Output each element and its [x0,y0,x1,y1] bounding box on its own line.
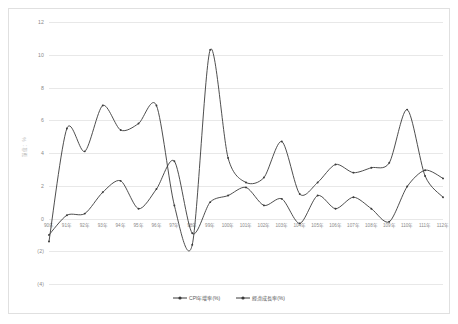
data-point-marker [263,177,265,179]
y-axis-title: 單位：% [21,137,27,157]
data-point-marker [370,167,372,169]
data-point-marker [245,186,247,188]
data-point-marker [299,193,301,195]
data-point-marker [173,204,175,206]
data-point-marker [299,222,301,224]
data-point-marker [84,150,86,152]
legend-item[interactable]: CPI年增率(%) [173,294,220,301]
data-point-marker [370,208,372,210]
data-point-marker [209,49,211,51]
y-axis-tick-label: 8 [41,85,44,91]
data-point-marker [263,204,265,206]
data-point-marker [388,162,390,164]
data-point-marker [191,232,193,234]
data-point-marker [227,157,229,159]
data-point-marker [442,177,444,179]
legend-line-marker-icon [173,295,187,301]
data-point-marker [388,221,390,223]
y-axis-tick-label: 10 [38,52,44,58]
data-point-marker [173,160,175,162]
data-point-marker [406,109,408,111]
data-point-marker [209,201,211,203]
data-point-marker [191,244,193,246]
data-point-marker [84,213,86,215]
data-point-marker [102,191,104,193]
plot-area: 121086420(2)(4) 90年91年92年93年94年95年96年97年… [49,22,443,284]
data-point-marker [424,169,426,171]
legend-label: CPI年增率(%) [189,294,220,301]
data-point-marker [120,180,122,182]
series-line [49,160,443,235]
data-point-marker [120,129,122,131]
data-point-marker [66,214,68,216]
data-point-marker [156,188,158,190]
data-point-marker [156,105,158,107]
data-point-marker [138,123,140,125]
data-point-marker [281,141,283,143]
data-point-marker [317,182,319,184]
y-axis-tick-label: (4) [37,281,44,287]
chart-legend: CPI年增率(%)經濟成長率(%) [9,294,449,301]
data-point-marker [442,196,444,198]
series-lines [49,22,443,284]
y-axis-tick-label: (2) [37,248,44,254]
data-point-marker [245,182,247,184]
y-axis-tick-label: 12 [38,19,44,25]
gridline [49,284,443,285]
data-point-marker [138,208,140,210]
y-axis-tick-label: 6 [41,117,44,123]
y-axis-tick-label: 2 [41,183,44,189]
data-point-marker [424,175,426,177]
data-point-marker [317,195,319,197]
legend-item[interactable]: 經濟成長率(%) [236,294,285,301]
legend-line-marker-icon [236,295,250,301]
data-point-marker [353,172,355,174]
data-point-marker [102,105,104,107]
legend-label: 經濟成長率(%) [252,294,285,301]
data-point-marker [335,208,337,210]
data-point-marker [335,164,337,166]
data-point-marker [66,127,68,129]
data-point-marker [48,240,50,242]
data-point-marker [227,195,229,197]
y-axis-tick-label: 4 [41,150,44,156]
chart-container: 單位：% 121086420(2)(4) 90年91年92年93年94年95年9… [8,8,450,314]
data-point-marker [353,196,355,198]
data-point-marker [406,186,408,188]
data-point-marker [281,198,283,200]
